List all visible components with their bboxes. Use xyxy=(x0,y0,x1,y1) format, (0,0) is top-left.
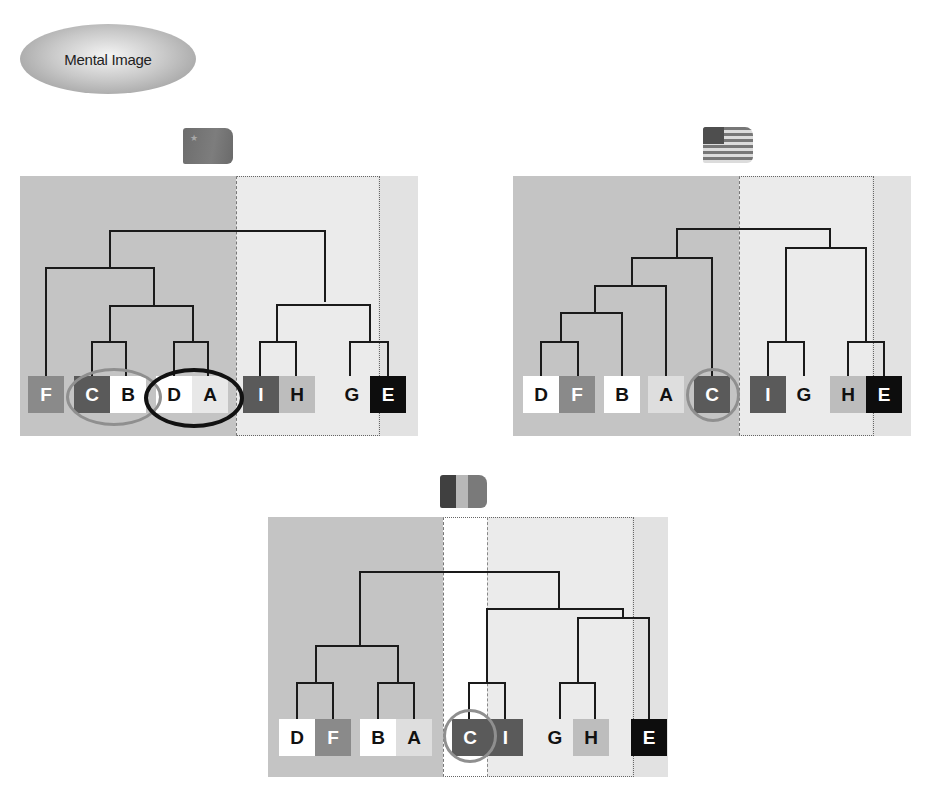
leaf-H: H xyxy=(573,719,609,756)
leaf-H: H xyxy=(279,376,315,413)
gray-circle-highlight xyxy=(686,368,740,422)
leaf-F: F xyxy=(315,719,351,756)
leaf-I: I xyxy=(750,376,786,413)
leaf-B: B xyxy=(604,376,640,413)
gray-circle-highlight xyxy=(443,709,497,763)
usa-flag-icon xyxy=(703,127,753,163)
leaf-A: A xyxy=(396,719,432,756)
leaf-D: D xyxy=(523,376,559,413)
leaf-G: G xyxy=(786,376,822,413)
leaf-F: F xyxy=(28,376,64,413)
leaf-F: F xyxy=(559,376,595,413)
leaf-B: B xyxy=(360,719,396,756)
leaf-G: G xyxy=(334,376,370,413)
black-ellipse-highlight xyxy=(144,368,244,428)
leaf-E: E xyxy=(866,376,902,413)
leaf-E: E xyxy=(631,719,667,756)
china-flag-icon: ★ xyxy=(183,128,233,164)
mental-image-title: Mental Image xyxy=(20,24,196,94)
dendrogram-china: F C B D A I H G E xyxy=(20,176,418,436)
dendrogram-usa: D F B A C I G H E xyxy=(513,176,911,436)
title-label: Mental Image xyxy=(64,51,151,68)
leaf-G: G xyxy=(537,719,573,756)
leaf-D: D xyxy=(279,719,315,756)
leaf-A: A xyxy=(648,376,684,413)
leaf-E: E xyxy=(370,376,406,413)
france-flag-icon xyxy=(440,475,487,508)
leaf-I: I xyxy=(243,376,279,413)
dendrogram-france: D F B A C I G H E xyxy=(268,517,668,777)
leaf-H: H xyxy=(830,376,866,413)
